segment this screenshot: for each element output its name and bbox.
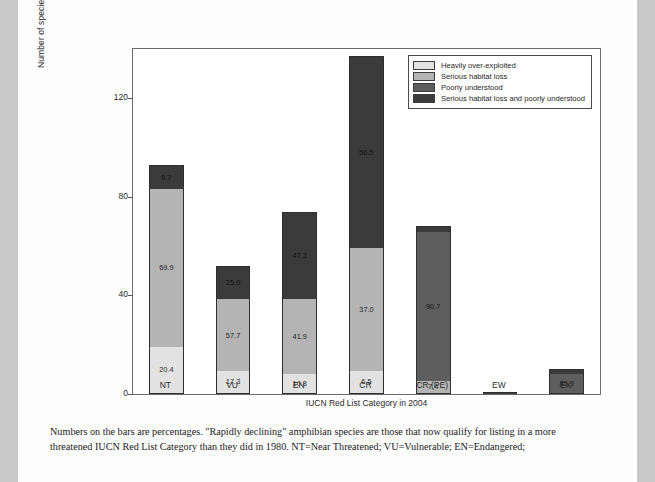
bar-segment[interactable]: 41.9	[283, 298, 316, 374]
bar-nt[interactable]: 20.469.99.7	[149, 165, 184, 394]
bar-segment[interactable]: 56.5	[350, 57, 383, 247]
bar-segment-value-label: 47.3	[293, 252, 307, 259]
legend-swatch-icon	[413, 94, 435, 103]
x-axis-tick-label: CR (PE)	[399, 380, 466, 390]
legend-swatch-icon	[413, 72, 435, 81]
legend-item[interactable]: Heavily over-exploited	[413, 60, 585, 71]
y-axis-tick-label: 80	[50, 191, 128, 201]
x-axis-tick-label: NT	[132, 380, 199, 390]
bar-segment[interactable]: 9.7	[150, 166, 183, 188]
legend-item[interactable]: Serious habitat loss	[413, 71, 585, 82]
bar-segment-value-label: 41.9	[293, 333, 307, 340]
y-axis-tick-label: 0	[50, 388, 128, 398]
page-inner: Number of species that have changed cate…	[18, 0, 637, 482]
bar-segment-value-label: 56.5	[359, 149, 373, 156]
bar-vu[interactable]: 17.357.725.0	[216, 266, 251, 394]
bar-segment-value-label: 9.7	[161, 174, 171, 181]
legend-item-label: Heavily over-exploited	[441, 61, 516, 70]
y-axis-tick-mark	[128, 394, 133, 395]
figure: Number of species that have changed cate…	[50, 28, 610, 413]
x-axis-tick-label: VU	[199, 380, 266, 390]
legend-swatch-icon	[413, 61, 435, 70]
bar-cr-pe[interactable]: 7.490.7	[416, 226, 451, 394]
legend-swatch-icon	[413, 83, 435, 92]
legend-item-label: Serious habitat loss	[441, 72, 507, 81]
figure-caption: Numbers on the bars are percentages. "Ra…	[50, 424, 606, 454]
legend-item-label: Poorly understood	[441, 83, 503, 92]
caption-line-1: Numbers on the bars are percentages. "Ra…	[50, 424, 606, 439]
bar-segment-value-label: 37.0	[359, 306, 373, 313]
bar-segment-value-label: 69.9	[159, 264, 173, 271]
y-axis-tick-mark	[128, 295, 133, 296]
bar-segment[interactable]: 90.7	[417, 231, 450, 381]
bar-segment[interactable]: 37.0	[350, 247, 383, 371]
legend-item[interactable]: Poorly understood	[413, 82, 585, 93]
plot-frame: 20.469.99.717.357.725.010.841.947.36.537…	[132, 48, 601, 395]
x-axis-tick-label: CR	[332, 380, 399, 390]
caption-line-2: threatened IUCN Red List Category than t…	[50, 439, 606, 454]
bar-segment[interactable]: 47.3	[283, 213, 316, 298]
y-axis-tick-mark	[128, 98, 133, 99]
bar-segment[interactable]: 57.7	[217, 298, 250, 371]
document-page: Number of species that have changed cate…	[18, 0, 637, 482]
bar-segment-value-label: 90.7	[426, 303, 440, 310]
bar-segment[interactable]	[550, 370, 583, 373]
legend-item[interactable]: Serious habitat loss and poorly understo…	[413, 93, 585, 104]
chart-legend: Heavily over-exploitedSerious habitat lo…	[408, 55, 592, 109]
bar-cr[interactable]: 6.537.056.5	[349, 56, 384, 394]
x-axis-tick-label: EN	[265, 380, 332, 390]
bar-segment-value-label: 57.7	[226, 332, 240, 339]
y-axis-title: Number of species that have changed cate…	[36, 0, 54, 68]
bar-ew[interactable]	[483, 392, 518, 394]
y-axis-tick-label: 120	[50, 92, 128, 102]
x-axis-tick-label: EW	[466, 380, 533, 390]
legend-item-label: Serious habitat loss and poorly understo…	[441, 94, 585, 103]
bar-segment[interactable]	[417, 227, 450, 230]
x-axis-title: IUCN Red List Category in 2004	[132, 398, 601, 408]
y-axis-tick-mark	[128, 197, 133, 198]
bar-segment[interactable]: 69.9	[150, 188, 183, 347]
bar-segment-value-label: 20.4	[159, 366, 173, 373]
bar-segment[interactable]: 25.0	[217, 267, 250, 299]
x-axis-tick-label: EX	[532, 380, 599, 390]
bar-segment-value-label: 25.0	[226, 279, 240, 286]
bar-en[interactable]: 10.841.947.3	[282, 212, 317, 394]
y-axis-tick-label: 40	[50, 289, 128, 299]
